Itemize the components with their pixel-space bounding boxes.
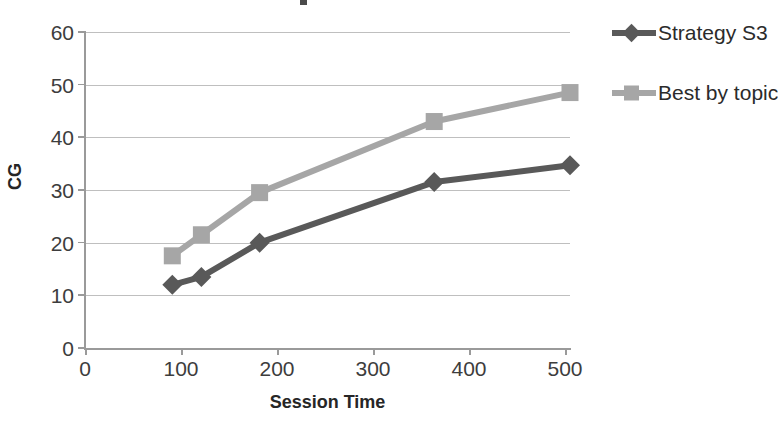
diamond-marker-icon [612,24,656,42]
legend-label-strategy-s3: Strategy S3 [656,21,768,45]
legend-item-best-by-topic[interactable]: Best by topic [612,78,756,108]
data-point-0-4 [560,155,580,175]
data-point-1-2 [251,184,268,201]
data-point-1-3 [426,113,443,130]
legend-label-best-by-topic: Best by topic [656,81,778,105]
square-marker-icon [612,84,656,102]
data-point-1-1 [193,226,210,243]
data-point-1-4 [562,84,579,101]
legend-item-strategy-s3[interactable]: Strategy S3 [612,18,756,48]
data-point-1-0 [164,247,181,264]
data-point-0-3 [424,172,444,192]
series-line-0 [172,165,570,285]
legend: Strategy S3 Best by topic [612,18,756,138]
data-point-0-0 [162,275,182,295]
